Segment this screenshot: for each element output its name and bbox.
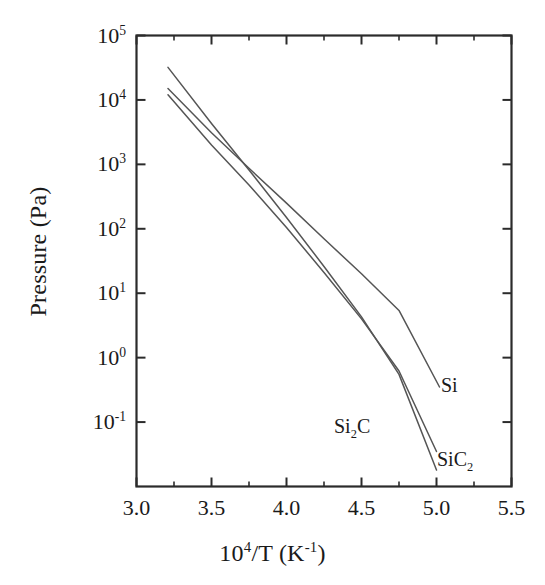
y-tick-base: 10 — [97, 151, 119, 176]
y-tick-label: 100 — [40, 345, 126, 371]
y-tick-label: 101 — [40, 280, 126, 306]
y-tick-base: 10 — [93, 409, 115, 434]
curve-si2c — [168, 67, 437, 470]
x-tick-label: 5.5 — [498, 495, 526, 521]
series-label-sic2-sub: 2 — [467, 460, 473, 474]
y-tick-base: 10 — [97, 280, 119, 305]
x-axis-title: 104/T (K-1) — [0, 540, 545, 567]
series-label-sic2-base: SiC — [437, 448, 467, 470]
x-axis-title-base: 10 — [219, 540, 243, 566]
x-tick-label: 4.0 — [273, 495, 301, 521]
x-axis-title-tail: ) — [317, 540, 325, 566]
data-curves — [168, 67, 440, 470]
curve-sic2 — [168, 95, 437, 452]
plot-frame — [137, 36, 512, 487]
series-label-si-text: Si — [441, 374, 458, 396]
series-label-sic2: SiC2 — [437, 448, 473, 471]
x-tick-label: 5.0 — [423, 495, 451, 521]
y-tick-exponent: 5 — [119, 22, 126, 37]
y-tick-exponent: 4 — [119, 87, 126, 102]
y-tick-label: 104 — [40, 87, 126, 113]
figure-container: 10510410310210110010-1 3.03.54.04.55.05.… — [0, 0, 545, 585]
y-tick-base: 10 — [97, 345, 119, 370]
series-label-si: Si — [441, 374, 458, 397]
series-label-si2c-base: Si — [334, 415, 351, 437]
y-tick-base: 10 — [97, 23, 119, 48]
y-tick-exponent: 0 — [119, 344, 126, 359]
y-tick-exponent: 2 — [119, 215, 126, 230]
curve-si — [168, 89, 440, 387]
y-axis-title: Pressure (Pa) — [25, 152, 52, 352]
y-tick-label: 10-1 — [40, 409, 126, 435]
y-tick-base: 10 — [97, 216, 119, 241]
y-tick-base: 10 — [97, 87, 119, 112]
series-label-si2c: Si2C — [334, 415, 370, 438]
x-axis-title-exponent-2: -1 — [305, 539, 318, 555]
series-label-si2c-tail: C — [357, 415, 370, 437]
axis-ticks — [137, 36, 512, 487]
x-axis-title-mid: /T (K — [251, 540, 304, 566]
y-tick-label: 105 — [40, 23, 126, 49]
x-tick-label: 3.5 — [198, 495, 226, 521]
x-tick-label: 4.5 — [348, 495, 376, 521]
x-tick-label: 3.0 — [123, 495, 151, 521]
y-tick-label: 103 — [40, 151, 126, 177]
y-tick-exponent: 3 — [119, 151, 126, 166]
y-tick-exponent: -1 — [115, 409, 126, 424]
y-tick-label: 102 — [40, 216, 126, 242]
y-tick-exponent: 1 — [119, 280, 126, 295]
